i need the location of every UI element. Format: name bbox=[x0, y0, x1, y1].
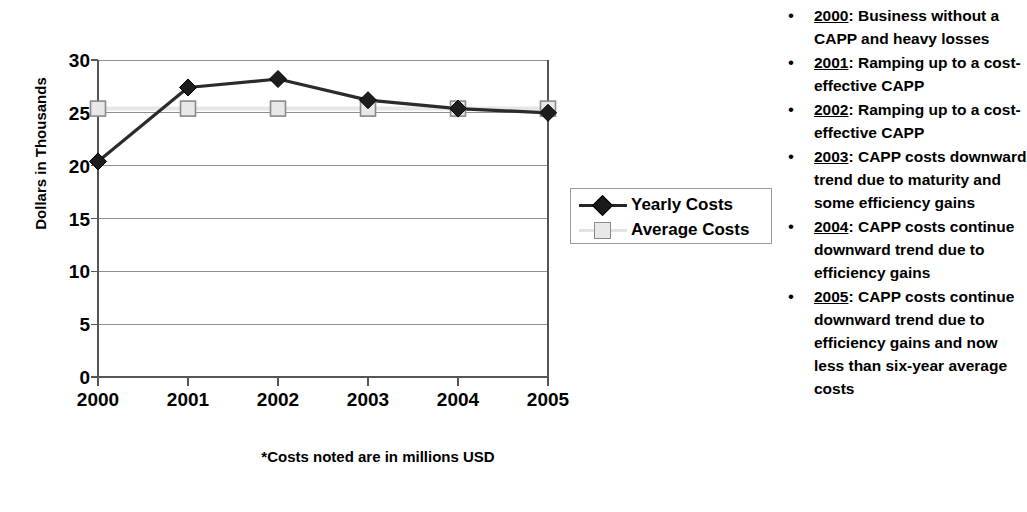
bullet-icon: • bbox=[778, 51, 814, 74]
y-axis-tick-labels: 051015202530 bbox=[38, 60, 90, 377]
bullet-icon: • bbox=[778, 4, 814, 27]
note-item: •2001: Ramping up to a cost-effective CA… bbox=[778, 51, 1027, 97]
x-tick-label: 2004 bbox=[413, 390, 503, 409]
data-point-average-costs[interactable] bbox=[271, 101, 286, 116]
x-axis-tick-labels: 200020012002200320042005 bbox=[98, 390, 548, 416]
x-tick-label: 2000 bbox=[53, 390, 143, 409]
note-item: •2003: CAPP costs downward trend due to … bbox=[778, 145, 1027, 214]
y-tick-label: 10 bbox=[44, 262, 90, 281]
x-tick-label: 2003 bbox=[323, 390, 413, 409]
series-line-yearly-costs bbox=[98, 79, 548, 161]
note-year: 2002 bbox=[814, 101, 848, 118]
y-tick-label: 25 bbox=[44, 104, 90, 123]
chart-legend: Yearly Costs Average Costs bbox=[570, 188, 772, 244]
x-tick-label: 2001 bbox=[143, 390, 233, 409]
note-text: 2004: CAPP costs continue downward trend… bbox=[814, 215, 1027, 284]
x-tick-label: 2002 bbox=[233, 390, 323, 409]
diamond-marker-icon bbox=[577, 195, 629, 215]
chart-footnote: *Costs noted are in millions USD bbox=[98, 448, 658, 465]
data-point-average-costs[interactable] bbox=[181, 101, 196, 116]
note-year: 2003 bbox=[814, 148, 848, 165]
y-tick-label: 20 bbox=[44, 157, 90, 176]
y-tick-label: 0 bbox=[44, 368, 90, 387]
note-year: 2001 bbox=[814, 54, 848, 71]
note-item: •2005: CAPP costs continue downward tren… bbox=[778, 285, 1027, 400]
bullet-icon: • bbox=[778, 98, 814, 121]
note-text: 2003: CAPP costs downward trend due to m… bbox=[814, 145, 1027, 214]
note-text: 2002: Ramping up to a cost-effective CAP… bbox=[814, 98, 1027, 144]
note-text: 2000: Business without a CAPP and heavy … bbox=[814, 4, 1027, 50]
data-point-average-costs[interactable] bbox=[91, 101, 106, 116]
legend-label-yearly-costs: Yearly Costs bbox=[629, 196, 733, 213]
bullet-icon: • bbox=[778, 285, 814, 308]
note-item: •2004: CAPP costs continue downward tren… bbox=[778, 215, 1027, 284]
bullet-icon: • bbox=[778, 215, 814, 238]
note-text: 2005: CAPP costs continue downward trend… bbox=[814, 285, 1027, 400]
plot-area bbox=[98, 60, 548, 377]
note-item: •2002: Ramping up to a cost-effective CA… bbox=[778, 98, 1027, 144]
legend-item-yearly-costs[interactable]: Yearly Costs bbox=[571, 192, 771, 217]
y-tick-label: 15 bbox=[44, 210, 90, 229]
legend-item-average-costs[interactable]: Average Costs bbox=[571, 217, 771, 242]
y-tick-label: 30 bbox=[44, 51, 90, 70]
data-point-yearly-costs[interactable] bbox=[270, 71, 287, 88]
note-year: 2005 bbox=[814, 288, 848, 305]
y-tick-label: 5 bbox=[44, 315, 90, 334]
note-item: •2000: Business without a CAPP and heavy… bbox=[778, 4, 1027, 50]
note-text: 2001: Ramping up to a cost-effective CAP… bbox=[814, 51, 1027, 97]
notes-list: •2000: Business without a CAPP and heavy… bbox=[778, 4, 1027, 509]
chart-svg bbox=[98, 60, 548, 377]
note-year: 2004 bbox=[814, 218, 848, 235]
bullet-icon: • bbox=[778, 145, 814, 168]
x-tick-label: 2005 bbox=[503, 390, 593, 409]
note-year: 2000 bbox=[814, 7, 848, 24]
square-marker-icon bbox=[577, 220, 629, 240]
chart-region: Dollars in Thousands 051015202530 200020… bbox=[0, 0, 770, 512]
legend-label-average-costs: Average Costs bbox=[629, 221, 749, 238]
